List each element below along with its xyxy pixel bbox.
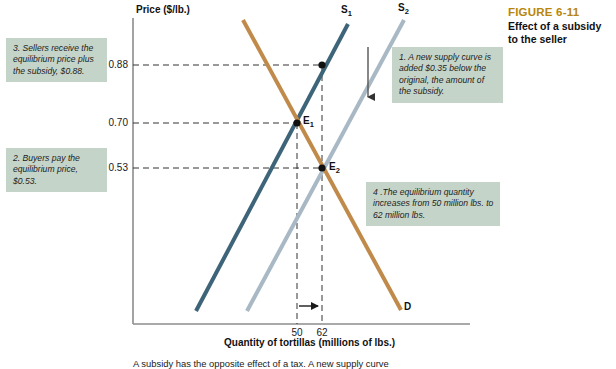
- point-e2: [318, 164, 325, 171]
- point-seller-price: [318, 61, 325, 68]
- curve-label-s1: S1: [341, 4, 352, 18]
- curve-label-d: D: [404, 301, 411, 312]
- curve-label-s1-text: S: [341, 4, 348, 15]
- point-label-e2: E2: [329, 161, 340, 175]
- callout-buyers-pay: 2. Buyers pay the equilibrium price, $0.…: [6, 148, 107, 192]
- point-label-e1-text: E: [303, 115, 310, 126]
- callout-sellers-receive: 3. Sellers receive the equilibrium price…: [6, 38, 107, 82]
- figure-title-block: FIGURE 6-11 Effect of a subsidy to the s…: [508, 6, 612, 46]
- point-label-e1-sub: 1: [310, 120, 314, 129]
- curve-label-s2: S2: [398, 2, 409, 16]
- x-tick-label-62: 62: [310, 327, 334, 338]
- x-axis-title: Quantity of tortillas (millions of lbs.): [224, 337, 395, 348]
- callout-equilibrium-quantity: 4 .The equilibrium quantity increases fr…: [366, 182, 500, 226]
- point-e1: [293, 119, 300, 126]
- body-caption: A subsidy has the opposite effect of a t…: [133, 358, 513, 369]
- y-axis-title: Price ($/lb.): [136, 4, 190, 15]
- point-label-e1: E1: [303, 115, 314, 129]
- curve-label-s1-sub: 1: [348, 9, 352, 18]
- curve-label-d-text: D: [404, 301, 411, 312]
- y-tick-label-070: 0.70: [94, 117, 128, 128]
- point-label-e2-text: E: [329, 161, 336, 172]
- x-tick-label-50: 50: [285, 327, 309, 338]
- callout-new-supply-curve: 1. A new supply curve is added $0.35 bel…: [392, 47, 503, 103]
- point-label-e2-sub: 2: [336, 166, 340, 175]
- curve-label-s2-text: S: [398, 2, 405, 13]
- figure-number: FIGURE 6-11: [508, 6, 612, 19]
- figure-caption: Effect of a subsidy to the seller: [508, 20, 612, 46]
- curve-label-s2-sub: 2: [405, 7, 409, 16]
